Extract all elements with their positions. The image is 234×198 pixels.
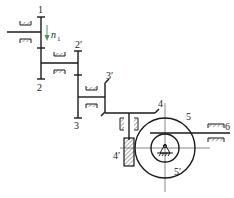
gear-2-prime-label: 2′ <box>75 39 82 50</box>
gear-3-prime-label: 3′ <box>106 70 113 81</box>
rack-6-label: 6 <box>225 121 230 132</box>
gear-train-diagram: 1 n 1 2 2′ 3 3′ <box>0 0 234 198</box>
speed-subscript: 1 <box>57 35 61 43</box>
gear-2-label: 2 <box>37 82 42 93</box>
bevel-gear-4 <box>101 109 159 116</box>
gear-1-label: 1 <box>38 4 43 15</box>
gear-5-prime-label: 5′ <box>174 166 181 177</box>
speed-label: n <box>51 29 56 40</box>
gear-5-label: 5 <box>186 111 191 122</box>
gear-4-prime-label: 4′ <box>113 150 120 161</box>
gear-3-label: 3 <box>74 120 79 131</box>
speed-arrow <box>45 25 50 41</box>
gear-4-label: 4 <box>158 98 163 109</box>
worm-4-prime <box>124 138 134 166</box>
